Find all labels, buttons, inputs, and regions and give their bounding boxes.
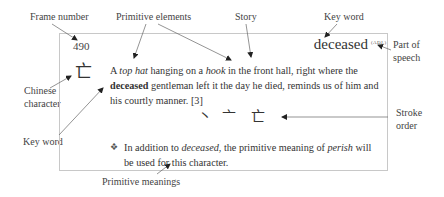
arrow-primitive-top-hat <box>134 24 146 58</box>
arrow-frame-number <box>52 24 77 40</box>
arrow-chinese-character <box>50 76 71 88</box>
arrow-part-of-speech <box>378 45 391 50</box>
annotation-arrows <box>0 0 444 197</box>
arrow-story <box>246 24 251 57</box>
arrow-primitive-meanings <box>157 164 170 174</box>
arrow-key-word-left <box>59 88 103 135</box>
arrow-key-word-top <box>325 24 337 37</box>
arrow-primitive-hook <box>158 24 231 60</box>
